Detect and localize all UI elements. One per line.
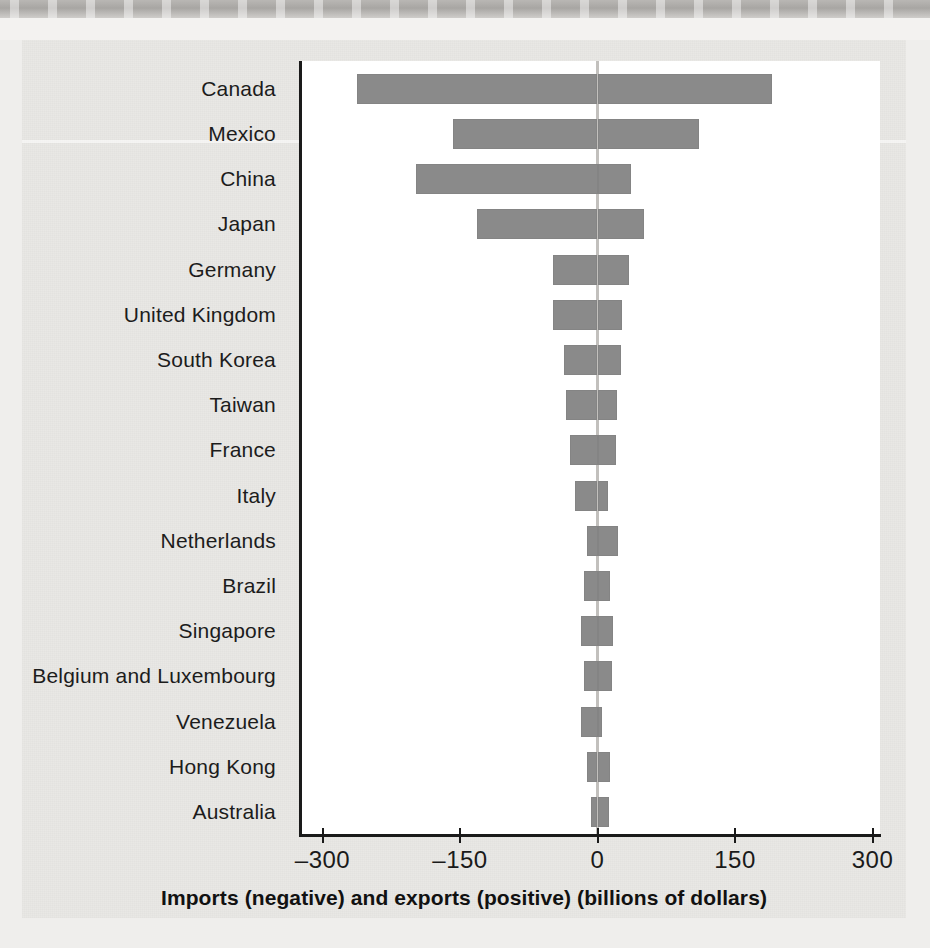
export-bar <box>598 752 611 782</box>
category-label: Japan <box>218 212 276 236</box>
bar-row: Hong Kong <box>22 744 906 790</box>
category-label: Italy <box>236 484 276 508</box>
page-edge-tick <box>48 0 57 18</box>
import-bar <box>566 390 597 420</box>
bar-row: Italy <box>22 473 906 519</box>
page-edge-tick <box>770 0 779 18</box>
x-axis-tick <box>734 828 736 843</box>
category-label: Brazil <box>222 574 276 598</box>
category-label: South Korea <box>157 348 276 372</box>
import-bar <box>416 164 598 194</box>
page-edge-tick <box>466 0 475 18</box>
category-label: Hong Kong <box>169 755 276 779</box>
export-bar <box>598 435 616 465</box>
x-axis-title: Imports (negative) and exports (positive… <box>22 886 906 910</box>
export-bar <box>598 119 700 149</box>
category-label: Taiwan <box>209 393 276 417</box>
bar-row: Canada <box>22 66 906 112</box>
page-edge-tick <box>656 0 665 18</box>
page-edge-tick <box>276 0 285 18</box>
page-edge-tick <box>124 0 133 18</box>
import-bar <box>581 616 598 646</box>
export-bar <box>598 797 609 827</box>
page-edge-tick <box>580 0 589 18</box>
bar-row: Netherlands <box>22 518 906 564</box>
bar-row: Singapore <box>22 608 906 654</box>
category-label: Singapore <box>178 619 276 643</box>
page-edge-tick <box>390 0 399 18</box>
category-label: Germany <box>188 258 276 282</box>
export-bar <box>598 707 603 737</box>
bar-row: Brazil <box>22 563 906 609</box>
import-bar <box>477 209 597 239</box>
x-axis-tick-label: 150 <box>714 846 756 874</box>
category-label: Venezuela <box>176 710 276 734</box>
x-axis-tick <box>459 828 461 843</box>
export-bar <box>598 661 613 691</box>
page-edge-tick <box>10 0 19 18</box>
import-bar <box>357 74 597 104</box>
page-edge-tick <box>504 0 513 18</box>
figure-panel: CanadaMexicoChinaJapanGermanyUnited King… <box>22 40 906 918</box>
category-label: Canada <box>201 77 276 101</box>
export-bar <box>598 481 608 511</box>
import-bar <box>584 571 598 601</box>
category-label: United Kingdom <box>124 303 276 327</box>
page-edge-tick <box>352 0 361 18</box>
import-bar <box>453 119 598 149</box>
category-label: Netherlands <box>161 529 276 553</box>
export-bar <box>598 526 618 556</box>
export-bar <box>598 74 772 104</box>
x-axis-tick-label: –150 <box>432 846 487 874</box>
x-axis-tick-label: 300 <box>852 846 894 874</box>
page-edge-tick <box>542 0 551 18</box>
import-bar <box>587 526 598 556</box>
page-edge-tick <box>618 0 627 18</box>
import-bar <box>575 481 598 511</box>
import-bar <box>570 435 598 465</box>
page-edge-tick <box>86 0 95 18</box>
page-edge-tick <box>846 0 855 18</box>
page-edge-tick <box>238 0 247 18</box>
bar-row: Germany <box>22 247 906 293</box>
x-axis-tick <box>322 828 324 843</box>
import-bar <box>564 345 598 375</box>
bar-row: China <box>22 156 906 202</box>
bar-row: France <box>22 428 906 474</box>
category-label: China <box>220 167 276 191</box>
bar-row: Mexico <box>22 111 906 157</box>
export-bar <box>598 571 611 601</box>
bar-row: Japan <box>22 202 906 248</box>
page-edge-tick <box>428 0 437 18</box>
import-bar <box>584 661 598 691</box>
import-bar <box>587 752 597 782</box>
page-edge-tick <box>200 0 209 18</box>
export-bar <box>598 390 617 420</box>
x-axis-tick-label: –300 <box>295 846 350 874</box>
category-label: Belgium and Luxembourg <box>32 664 276 688</box>
x-axis-tick <box>872 828 874 843</box>
page-edge-tick <box>732 0 741 18</box>
export-bar <box>598 300 623 330</box>
export-bar <box>598 209 645 239</box>
page-edge-tick <box>694 0 703 18</box>
bar-row: Australia <box>22 789 906 835</box>
bar-row: United Kingdom <box>22 292 906 338</box>
scanned-page-top-edge <box>0 0 930 18</box>
bar-row: Venezuela <box>22 699 906 745</box>
import-bar <box>581 707 598 737</box>
import-bar <box>553 255 598 285</box>
export-bar <box>598 616 614 646</box>
bar-row: South Korea <box>22 337 906 383</box>
bar-row: Belgium and Luxembourg <box>22 654 906 700</box>
category-label: Mexico <box>208 122 276 146</box>
scanned-page-margin <box>0 18 930 40</box>
x-axis-tick-label: 0 <box>591 846 605 874</box>
page-edge-tick <box>808 0 817 18</box>
import-bar <box>553 300 598 330</box>
bar-row: Taiwan <box>22 382 906 428</box>
category-label: Australia <box>192 800 276 824</box>
category-label: France <box>209 438 276 462</box>
page-edge-tick <box>314 0 323 18</box>
export-bar <box>598 255 629 285</box>
